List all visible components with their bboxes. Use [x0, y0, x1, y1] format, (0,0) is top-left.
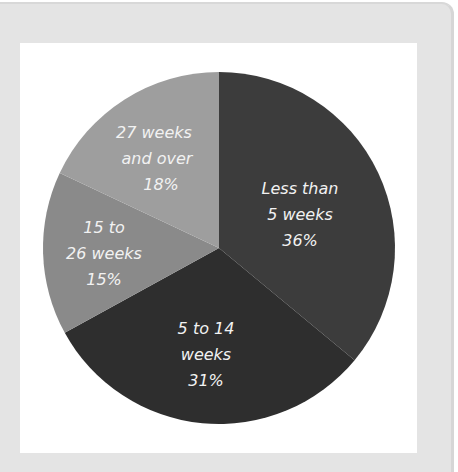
label-line: 5 to 14 [178, 319, 235, 338]
label-line: and over [122, 149, 194, 168]
pie-chart: Less than 5 weeks 36% 5 to 14 weeks 31% … [0, 0, 458, 472]
label-line: Less than [262, 179, 339, 198]
label-line: 26 weeks [66, 244, 142, 263]
label-value: 31% [188, 371, 224, 390]
label-line: 27 weeks [116, 123, 192, 142]
label-value: 15% [86, 270, 122, 289]
label-line: 5 weeks [267, 205, 333, 224]
label-value: 36% [282, 231, 318, 250]
label-value: 18% [143, 175, 179, 194]
label-line: 15 to [83, 218, 125, 237]
label-line: weeks [181, 345, 231, 364]
